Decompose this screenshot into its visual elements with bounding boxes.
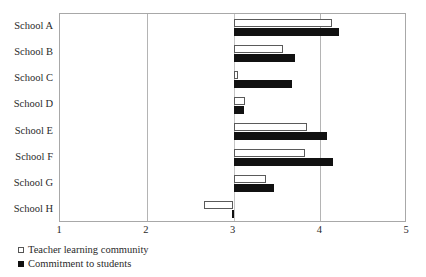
legend-label: Commitment to students xyxy=(28,257,131,271)
bar-teacher-learning-community xyxy=(204,201,233,209)
y-axis-label-school-g: School G xyxy=(14,170,53,196)
bar-teacher-learning-community xyxy=(234,175,267,183)
bar-commitment-to-students xyxy=(234,54,296,62)
open-square-icon xyxy=(18,247,24,253)
bar-group-school-c xyxy=(60,66,405,92)
bar-teacher-learning-community xyxy=(234,123,308,131)
bar-commitment-to-students xyxy=(234,106,244,114)
plot-area xyxy=(59,13,406,222)
x-axis-tick-5: 5 xyxy=(403,224,408,235)
bar-group-school-e xyxy=(60,119,405,145)
bar-group-school-h xyxy=(60,197,405,223)
x-axis-tick-4: 4 xyxy=(317,224,322,235)
bar-commitment-to-students xyxy=(234,158,334,166)
bar-group-school-d xyxy=(60,92,405,118)
bar-group-school-a xyxy=(60,14,405,40)
y-axis-label-school-b: School B xyxy=(14,39,53,65)
y-axis-label-school-c: School C xyxy=(14,65,53,91)
bar-teacher-learning-community xyxy=(234,71,238,79)
y-axis-label-school-f: School F xyxy=(15,144,53,170)
bar-commitment-to-students xyxy=(234,132,328,140)
chart-legend: Teacher learning community Commitment to… xyxy=(18,243,149,271)
x-axis-tick-1: 1 xyxy=(56,224,61,235)
bar-teacher-learning-community xyxy=(234,19,332,27)
bar-teacher-learning-community xyxy=(234,149,305,157)
bar-group-school-g xyxy=(60,171,405,197)
y-axis-label-school-h: School H xyxy=(14,196,53,222)
bar-group-school-b xyxy=(60,40,405,66)
bar-commitment-to-students xyxy=(232,210,234,218)
y-axis-labels: School ASchool BSchool CSchool DSchool E… xyxy=(0,13,56,222)
bar-group-school-f xyxy=(60,145,405,171)
x-axis-tick-2: 2 xyxy=(143,224,148,235)
bar-commitment-to-students xyxy=(234,28,340,36)
y-axis-label-school-e: School E xyxy=(15,118,53,144)
bar-commitment-to-students xyxy=(234,80,292,88)
x-axis-tick-3: 3 xyxy=(230,224,235,235)
legend-item-teacher-learning-community: Teacher learning community xyxy=(18,243,149,257)
y-axis-label-school-d: School D xyxy=(14,91,53,117)
legend-label: Teacher learning community xyxy=(28,243,149,257)
filled-square-icon xyxy=(18,261,24,267)
bar-teacher-learning-community xyxy=(234,45,283,53)
bar-commitment-to-students xyxy=(234,184,275,192)
x-axis-labels: 12345 xyxy=(0,224,426,240)
legend-item-commitment-to-students: Commitment to students xyxy=(18,257,149,271)
bar-teacher-learning-community xyxy=(234,97,245,105)
bar-chart: School ASchool BSchool CSchool DSchool E… xyxy=(0,0,426,277)
y-axis-label-school-a: School A xyxy=(14,13,53,39)
